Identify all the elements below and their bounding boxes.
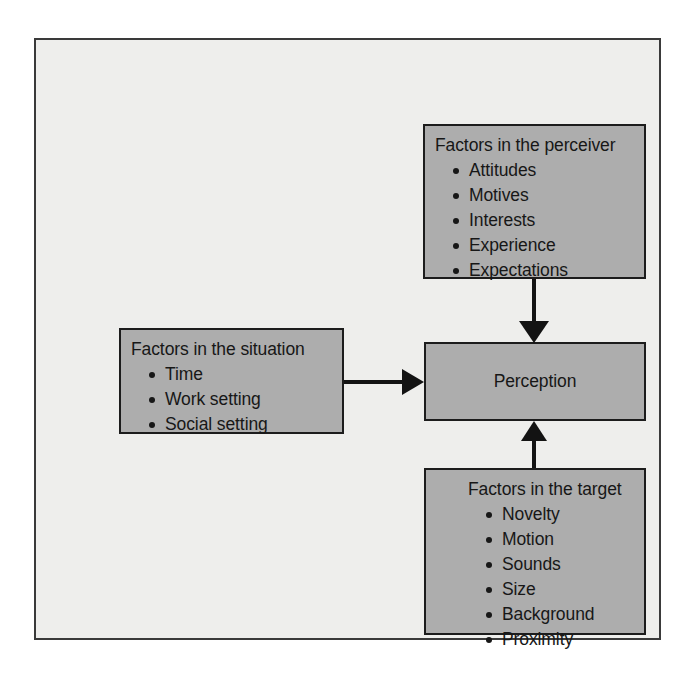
- node-factors-in-the-target[interactable]: Factors in the target Novelty Motion Sou…: [424, 468, 646, 635]
- list-item: Attitudes: [453, 158, 644, 183]
- list-item: Proximity: [486, 627, 644, 652]
- connector-perceiver-to-perception-line: [532, 279, 536, 325]
- connector-target-to-perception-line: [532, 438, 536, 468]
- node-label-perception: Perception: [494, 371, 577, 392]
- list-item: Sounds: [486, 552, 644, 577]
- diagram-frame: Factors in the perceiver Attitudes Motiv…: [34, 38, 661, 640]
- node-factors-in-the-perceiver[interactable]: Factors in the perceiver Attitudes Motiv…: [423, 124, 646, 279]
- list-item: Experience: [453, 233, 644, 258]
- list-item: Background: [486, 602, 644, 627]
- list-item: Motives: [453, 183, 644, 208]
- node-title-perceiver: Factors in the perceiver: [425, 126, 644, 158]
- list-item: Motion: [486, 527, 644, 552]
- node-list-situation: Time Work setting Social setting: [121, 362, 342, 437]
- arrow-up-icon: [521, 421, 547, 441]
- list-item: Interests: [453, 208, 644, 233]
- list-item: Social setting: [149, 412, 342, 437]
- node-perception[interactable]: Perception: [424, 342, 646, 421]
- node-title-target: Factors in the target: [426, 470, 644, 502]
- node-list-target: Novelty Motion Sounds Size Background Pr…: [426, 502, 644, 652]
- list-item: Work setting: [149, 387, 342, 412]
- arrow-right-icon: [402, 369, 424, 395]
- list-item: Time: [149, 362, 342, 387]
- list-item: Size: [486, 577, 644, 602]
- connector-situation-to-perception-line: [344, 380, 406, 384]
- diagram-canvas: Factors in the perceiver Attitudes Motiv…: [0, 0, 691, 673]
- node-title-situation: Factors in the situation: [121, 330, 342, 362]
- node-factors-in-the-situation[interactable]: Factors in the situation Time Work setti…: [119, 328, 344, 434]
- arrow-down-icon: [519, 321, 549, 343]
- list-item: Expectations: [453, 258, 644, 283]
- list-item: Novelty: [486, 502, 644, 527]
- node-list-perceiver: Attitudes Motives Interests Experience E…: [425, 158, 644, 283]
